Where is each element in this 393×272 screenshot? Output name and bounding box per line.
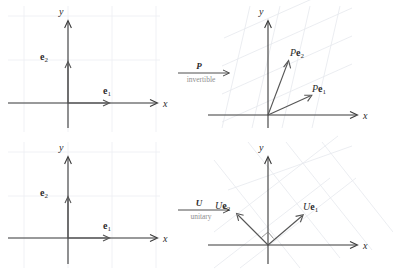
axis-label-y-top-left: y [58, 6, 64, 17]
square-grid-top-left [8, 6, 160, 132]
vector-label-e1-bottom-left: e1 [103, 220, 111, 233]
vector-Ue1-bottom-right [268, 216, 302, 245]
panel-top-right: y x Pe1 Pe2 [208, 0, 368, 128]
vector-label-Pe2-top-right: Pe2 [289, 47, 305, 60]
axis-label-y-bottom-right: y [258, 142, 264, 153]
map-P-caption: invertible [187, 75, 216, 84]
vector-label-Pe1-top-right: Pe1 [311, 83, 327, 96]
vector-label-Ue1-bottom-right: Ue1 [303, 201, 319, 214]
axis-label-x-bottom-right: x [362, 240, 368, 251]
panel-bottom-left: y x e1 e2 [8, 142, 168, 268]
vector-label-e2-bottom-left: e2 [40, 187, 48, 200]
vector-label-e1-top-left: e1 [103, 85, 111, 98]
axis-label-x-top-left: x [162, 98, 168, 109]
map-P: P invertible [178, 61, 230, 84]
panel-bottom-right: y x Ue1 Ue2 [208, 136, 393, 268]
panel-top-left: y x e1 e2 [8, 6, 168, 132]
axis-label-y-bottom-left: y [58, 142, 64, 153]
map-U-caption: unitary [190, 212, 211, 221]
transformation-figure: y x e1 e2 P invertible [0, 0, 393, 272]
axis-label-y-top-right: y [258, 6, 264, 17]
vector-label-Ue2-bottom-right: Ue2 [215, 200, 231, 213]
axis-label-x-top-right: x [362, 110, 368, 121]
map-U-symbol: U [196, 198, 203, 208]
square-grid-bottom-left [8, 142, 160, 268]
axis-label-x-bottom-left: x [162, 233, 168, 244]
vector-label-e2-top-left: e2 [40, 51, 48, 64]
map-P-symbol: P [196, 61, 202, 71]
